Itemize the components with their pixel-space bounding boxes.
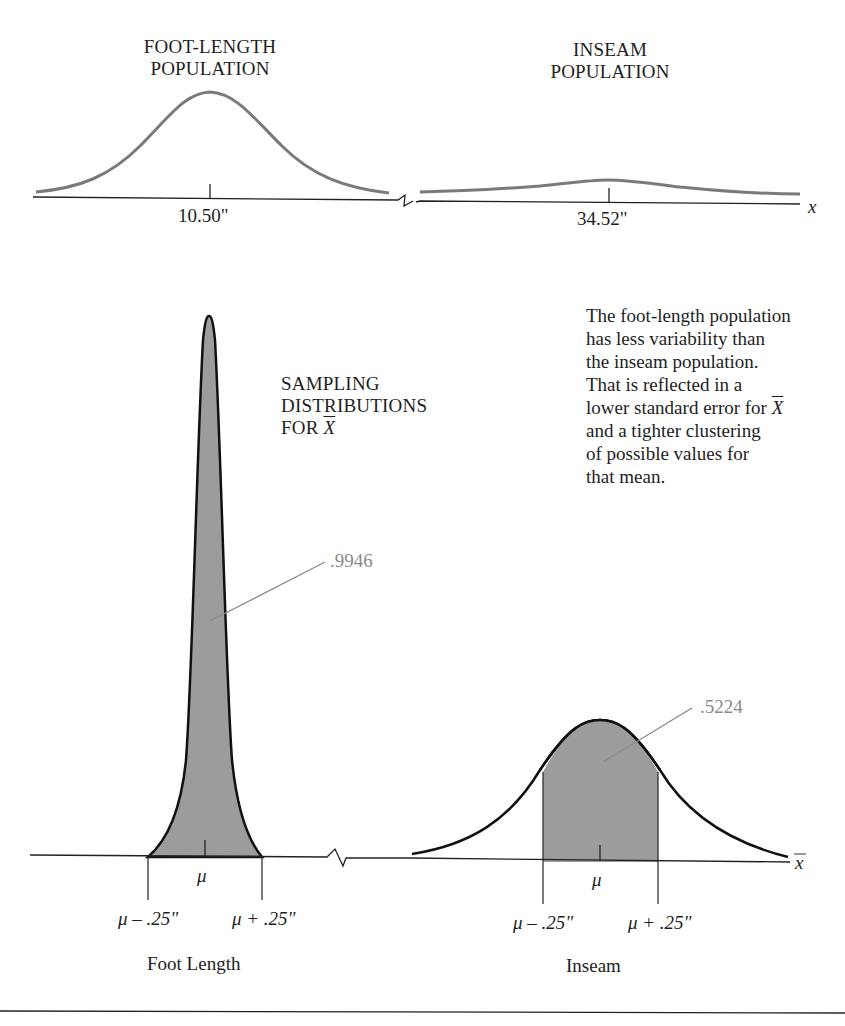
- foot-population-title: FOOT-LENGTH POPULATION: [130, 36, 290, 80]
- population-panel: [33, 92, 800, 206]
- foot-population-title-line1: FOOT-LENGTH: [130, 36, 290, 58]
- figure-canvas: [0, 0, 845, 1026]
- note-x-bar-symbol: X: [772, 397, 784, 418]
- foot-length-caption: Foot Length: [147, 953, 240, 975]
- inseam-lower-bound-label: μ – .25": [513, 912, 573, 934]
- top-axis-label: x: [808, 196, 816, 218]
- inseam-mu-label: μ: [592, 869, 602, 891]
- foot-prob-leader: [210, 562, 325, 621]
- foot-probability-label: .9946: [330, 550, 373, 572]
- x-bar-symbol: X: [324, 417, 336, 438]
- foot-population-title-line2: POPULATION: [130, 58, 290, 80]
- note-line-4: That is reflected in a: [586, 373, 836, 396]
- note-line-7: of possible values for: [586, 442, 836, 465]
- note-line-8: that mean.: [586, 465, 836, 488]
- explanatory-note: The foot-length population has less vari…: [586, 304, 836, 488]
- inseam-population-curve: [420, 180, 800, 194]
- note-line-2: has less variability than: [586, 327, 836, 350]
- foot-upper-bound-label: μ + .25": [232, 908, 296, 930]
- inseam-population-title-line1: INSEAM: [530, 39, 690, 61]
- sampling-title-line2: DISTRIBUTIONS: [281, 395, 427, 417]
- sampling-title-line1: SAMPLING: [281, 373, 427, 395]
- bottom-rule: [0, 1011, 845, 1013]
- foot-mean-label: 10.50": [178, 205, 229, 227]
- note-line-3: the inseam population.: [586, 350, 836, 373]
- top-axis-right: [416, 201, 800, 204]
- note-line-5: lower standard error for X: [586, 396, 836, 419]
- foot-sampling-shade: [148, 316, 262, 857]
- inseam-population-title: INSEAM POPULATION: [530, 39, 690, 83]
- inseam-probability-label: .5224: [700, 696, 743, 718]
- sampling-distributions-title: SAMPLING DISTRIBUTIONS FOR X: [281, 373, 427, 439]
- bottom-axis-label: x: [795, 852, 803, 874]
- inseam-caption: Inseam: [566, 955, 621, 977]
- foot-population-curve: [36, 92, 389, 193]
- sampling-title-line3: FOR X: [281, 417, 427, 439]
- foot-mu-label: μ: [197, 865, 207, 887]
- note-line-1: The foot-length population: [586, 304, 836, 327]
- sampling-title-for: FOR: [281, 417, 324, 438]
- note-line-6: and a tighter clustering: [586, 419, 836, 442]
- inseam-upper-bound-label: μ + .25": [628, 912, 692, 934]
- note-line-5-text: lower standard error for: [586, 397, 772, 418]
- foot-lower-bound-label: μ – .25": [118, 908, 178, 930]
- inseam-mean-label: 34.52": [577, 208, 628, 230]
- inseam-population-title-line2: POPULATION: [530, 61, 690, 83]
